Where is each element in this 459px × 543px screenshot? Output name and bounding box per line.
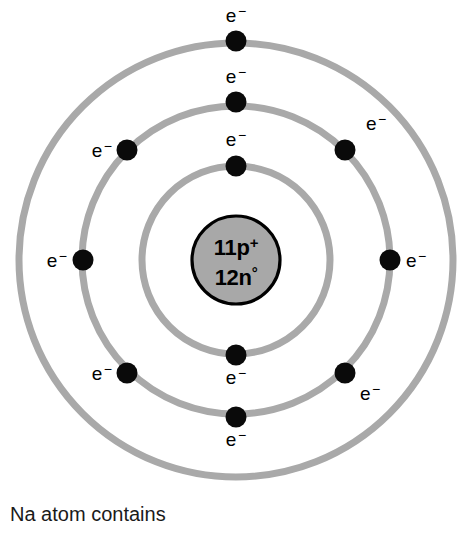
nucleus-circle (192, 216, 280, 304)
electron-middle-right-label: e− (406, 248, 426, 271)
electron-inner-bottom-label: e− (226, 365, 246, 388)
nucleus-neutron-count: 12n (215, 265, 252, 290)
electron-middle-upper-right: e− (335, 111, 387, 161)
electron-inner-top: e− (226, 127, 247, 177)
nucleus-neutron-charge: ° (252, 264, 258, 281)
electron-middle-upper-right-label: e− (366, 111, 386, 134)
electron-middle-lower-left-label: e− (92, 361, 112, 384)
electron-middle-left: e− (47, 248, 94, 271)
electron-outer-top-dot (226, 31, 247, 52)
electron-middle-lower-left-dot (117, 363, 138, 384)
electron-middle-top: e− (226, 64, 247, 113)
electron-middle-right: e− (380, 248, 427, 271)
electron-middle-top-dot (226, 92, 247, 113)
electron-middle-lower-right: e− (335, 363, 381, 405)
atom-diagram-svg: 11p+ 12n° e−e−e−e−e−e−e−e−e−e−e− (0, 0, 459, 490)
electron-outer-top: e− (226, 3, 247, 52)
electron-inner-top-dot (226, 156, 247, 177)
electron-outer-top-label: e− (226, 3, 246, 26)
caption-block: Na atom contains (10, 500, 450, 528)
electron-middle-upper-left: e− (92, 138, 138, 161)
electron-middle-bottom-label: e− (226, 427, 246, 450)
nucleus-proton-count: 11p (214, 235, 250, 260)
caption-line-1: Na atom contains (10, 500, 450, 528)
electron-middle-right-dot (380, 250, 401, 271)
nucleus-neutron-text: 12n° (215, 264, 258, 290)
electron-middle-bottom-dot (226, 407, 247, 428)
electron-middle-upper-left-label: e− (92, 138, 112, 161)
electron-inner-top-label: e− (226, 127, 246, 150)
nucleus-group: 11p+ 12n° (192, 216, 280, 304)
atom-diagram: 11p+ 12n° e−e−e−e−e−e−e−e−e−e−e− (0, 0, 459, 490)
electron-inner-bottom: e− (226, 345, 247, 389)
electron-middle-lower-left: e− (92, 361, 138, 384)
electron-middle-upper-right-dot (335, 140, 356, 161)
nucleus-proton-charge: + (250, 234, 259, 251)
electron-middle-lower-right-label: e− (360, 381, 380, 404)
electron-middle-lower-right-dot (335, 363, 356, 384)
electron-middle-bottom: e− (226, 407, 247, 451)
electron-middle-left-label: e− (47, 248, 67, 271)
electron-middle-top-label: e− (226, 64, 246, 87)
electron-middle-left-dot (73, 250, 94, 271)
electron-middle-upper-left-dot (117, 140, 138, 161)
electron-inner-bottom-dot (226, 345, 247, 366)
